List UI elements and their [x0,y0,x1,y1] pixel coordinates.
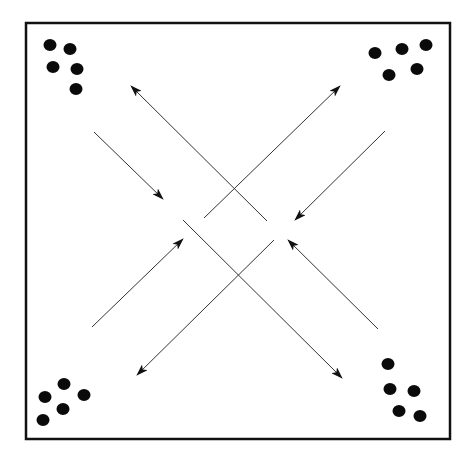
dot [39,391,52,403]
long-arrow-to-top-right [204,86,340,218]
dot [44,39,57,51]
dot-group-top-left [44,39,84,95]
field-border [26,23,450,439]
dot [411,63,424,75]
dot [369,47,382,59]
short-arrow-sw-inward [92,239,183,327]
dot [420,39,433,51]
dot [382,358,395,370]
dot-group-top-right [369,39,433,81]
dot [47,61,60,73]
arrows [92,86,385,378]
dot [78,389,91,401]
dot [71,63,84,75]
dot [37,414,50,426]
short-arrow-nw-inward [94,132,163,199]
dot [58,378,71,390]
long-arrow-to-bottom-right [183,220,342,378]
short-arrow-se-inward [288,240,378,329]
dot [408,385,421,397]
diagram-canvas [0,0,472,466]
dot [396,43,409,55]
dot-groups [37,39,433,426]
long-arrow-to-top-left [131,86,267,221]
dot [64,43,77,55]
dot-group-bottom-left [37,378,91,426]
long-arrow-to-bottom-left [137,240,274,375]
dot [384,383,397,395]
dot [393,405,406,417]
dot-group-bottom-right [382,358,427,422]
dot [70,83,83,95]
dot [57,403,70,415]
dot [383,69,396,81]
short-arrow-ne-inward [295,131,385,220]
dot [414,410,427,422]
